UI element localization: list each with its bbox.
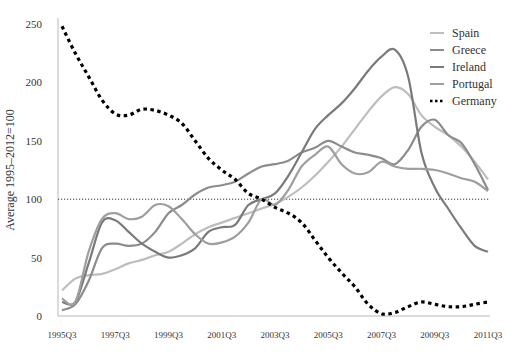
x-tick-label: 1999Q3 <box>154 330 183 340</box>
legend-label-portugal: Portugal <box>452 77 493 91</box>
legend-label-spain: Spain <box>452 26 479 40</box>
series-line-greece <box>62 119 488 310</box>
series-line-germany <box>62 26 488 314</box>
y-tick-label: 150 <box>26 135 43 147</box>
series-line-spain <box>62 87 488 290</box>
x-tick-label: 1995Q3 <box>48 330 77 340</box>
x-tick-label: 2003Q3 <box>261 330 290 340</box>
y-tick-label: 0 <box>37 310 43 322</box>
x-tick-label: 2009Q3 <box>420 330 449 340</box>
series-line-portugal <box>62 146 488 304</box>
y-axis: 050100150200250 <box>26 18 59 322</box>
x-tick-label: 2007Q3 <box>367 330 396 340</box>
y-tick-label: 250 <box>26 18 43 30</box>
x-axis: 1995Q31997Q31999Q32001Q32003Q32005Q32007… <box>48 316 503 340</box>
legend: SpainGreeceIrelandPortugalGermany <box>430 26 497 108</box>
x-tick-label: 2001Q3 <box>207 330 236 340</box>
line-chart: 050100150200250 1995Q31997Q31999Q32001Q3… <box>0 0 512 353</box>
y-tick-label: 200 <box>26 76 43 88</box>
y-axis-title: Average 1995–2012=100 <box>3 109 17 231</box>
series-line-ireland <box>62 49 488 305</box>
x-tick-label: 2011Q3 <box>474 330 503 340</box>
y-tick-label: 50 <box>31 252 43 264</box>
y-tick-label: 100 <box>26 193 43 205</box>
legend-label-ireland: Ireland <box>452 60 486 74</box>
x-tick-label: 2005Q3 <box>314 330 343 340</box>
legend-label-greece: Greece <box>452 43 486 57</box>
series-group <box>62 26 488 314</box>
legend-label-germany: Germany <box>452 94 497 108</box>
x-tick-label: 1997Q3 <box>101 330 130 340</box>
